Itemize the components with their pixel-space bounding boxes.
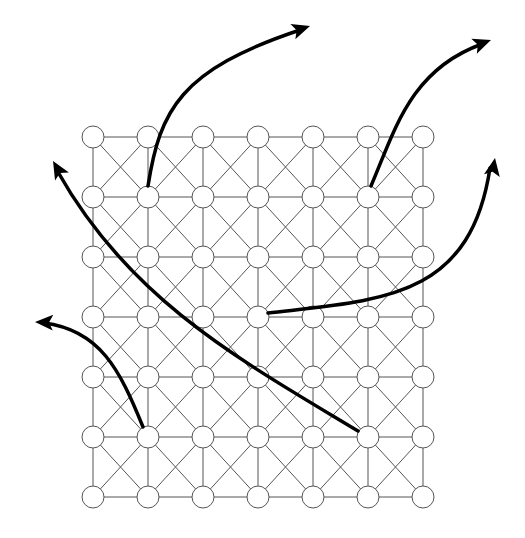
grid-node bbox=[247, 486, 269, 508]
grid-node bbox=[247, 306, 269, 328]
grid-node bbox=[82, 486, 104, 508]
grid-node bbox=[302, 486, 324, 508]
grid-node bbox=[247, 246, 269, 268]
grid-node bbox=[302, 366, 324, 388]
grid-node bbox=[82, 246, 104, 268]
grid-node bbox=[82, 426, 104, 448]
grid-node bbox=[302, 246, 324, 268]
arrow-2 bbox=[371, 32, 494, 186]
grid-node bbox=[412, 186, 434, 208]
grid-node bbox=[192, 246, 214, 268]
arrow-1 bbox=[148, 18, 312, 186]
grid-node bbox=[137, 366, 159, 388]
grid-node bbox=[137, 486, 159, 508]
grid-node bbox=[412, 486, 434, 508]
arrowhead-icon bbox=[290, 18, 312, 39]
grid-node bbox=[192, 186, 214, 208]
grid-node bbox=[357, 186, 379, 208]
grid-node bbox=[192, 486, 214, 508]
grid-node bbox=[82, 186, 104, 208]
grid-node bbox=[412, 126, 434, 148]
grid-node bbox=[247, 186, 269, 208]
grid-node bbox=[412, 426, 434, 448]
grid-node bbox=[137, 246, 159, 268]
arrows bbox=[35, 18, 503, 431]
grid-node bbox=[192, 366, 214, 388]
grid-node bbox=[357, 306, 379, 328]
grid-node bbox=[82, 126, 104, 148]
grid-node bbox=[137, 306, 159, 328]
grid-node bbox=[137, 186, 159, 208]
grid-node bbox=[82, 306, 104, 328]
grid-node bbox=[192, 126, 214, 148]
grid-diagram bbox=[0, 0, 525, 538]
grid-node bbox=[412, 246, 434, 268]
grid-node bbox=[82, 366, 104, 388]
grid-node bbox=[357, 366, 379, 388]
grid-node bbox=[302, 426, 324, 448]
grid-node bbox=[357, 246, 379, 268]
arrow-shaft bbox=[371, 44, 482, 186]
grid-node bbox=[357, 126, 379, 148]
grid-node bbox=[247, 426, 269, 448]
arrowhead-icon bbox=[471, 32, 493, 53]
grid-node bbox=[247, 126, 269, 148]
grid-node bbox=[137, 426, 159, 448]
arrow-3 bbox=[268, 157, 503, 313]
grid-node bbox=[412, 366, 434, 388]
arrowhead-icon bbox=[484, 157, 503, 178]
grid-node bbox=[302, 186, 324, 208]
arrow-shaft bbox=[268, 168, 490, 313]
grid-node bbox=[192, 426, 214, 448]
arrowhead-icon bbox=[46, 157, 69, 181]
grid-node bbox=[357, 426, 379, 448]
grid-node bbox=[302, 126, 324, 148]
grid-node bbox=[357, 486, 379, 508]
grid-node bbox=[412, 306, 434, 328]
